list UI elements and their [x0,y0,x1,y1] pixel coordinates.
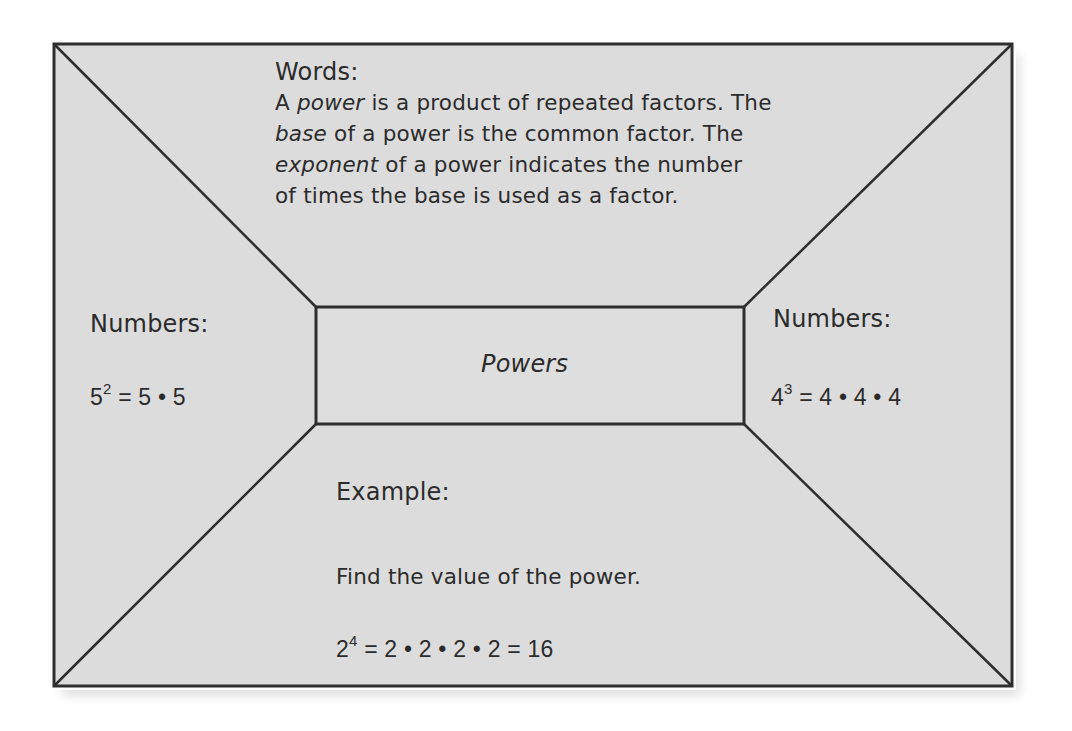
definition-line-2: base of a power is the common factor. Th… [275,118,772,149]
left-equation: 52 = 5 • 5 [90,384,186,411]
right-numbers-heading: Numbers: [773,305,892,333]
line-1-post: is a product of repeated factors. The [364,90,771,115]
line-3-post: of a power indicates the number [378,152,742,177]
example-eq-exponent: 4 [349,632,358,649]
left-eq-exponent: 2 [103,380,112,397]
powers-frayer-diagram: Words: A power is a product of repeated … [0,0,1072,731]
words-definition: A power is a product of repeated factors… [275,87,772,211]
example-prompt: Find the value of the power. [336,561,641,592]
example-heading: Example: [336,478,450,506]
term-power: power [297,90,364,115]
term-base: base [275,121,327,146]
example-equation: 24 = 2 • 2 • 2 • 2 = 16 [336,636,553,663]
center-title: Powers [481,350,568,378]
definition-line-3: exponent of a power indicates the number [275,149,772,180]
definition-line-4: of times the base is used as a factor. [275,180,772,211]
example-eq-base: 2 [336,636,349,662]
right-eq-base: 4 [771,384,784,410]
right-equation: 43 = 4 • 4 • 4 [771,384,901,411]
term-exponent: exponent [275,152,378,177]
words-heading: Words: [275,58,358,86]
left-numbers-heading: Numbers: [90,310,209,338]
line-2-post: of a power is the common factor. The [327,121,743,146]
right-eq-rest: = 4 • 4 • 4 [793,384,902,410]
line-4-text: of times the base is used as a factor. [275,183,679,208]
definition-line-1: A power is a product of repeated factors… [275,87,772,118]
line-1-pre: A [275,90,297,115]
example-eq-rest: = 2 • 2 • 2 • 2 = 16 [358,636,554,662]
right-eq-exponent: 3 [784,380,793,397]
left-eq-base: 5 [90,384,103,410]
left-eq-rest: = 5 • 5 [112,384,186,410]
